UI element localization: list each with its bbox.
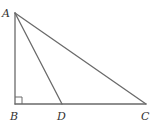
- triangle-diagram: A B D C: [0, 0, 157, 124]
- vertex-label-c: C: [141, 110, 150, 123]
- vertex-label-b: B: [9, 110, 18, 123]
- vertex-label-a: A: [1, 7, 10, 20]
- vertex-label-d: D: [56, 110, 66, 123]
- right-angle-marker-icon: [15, 97, 22, 104]
- segment-ad: [15, 13, 62, 104]
- segment-ac: [15, 13, 146, 104]
